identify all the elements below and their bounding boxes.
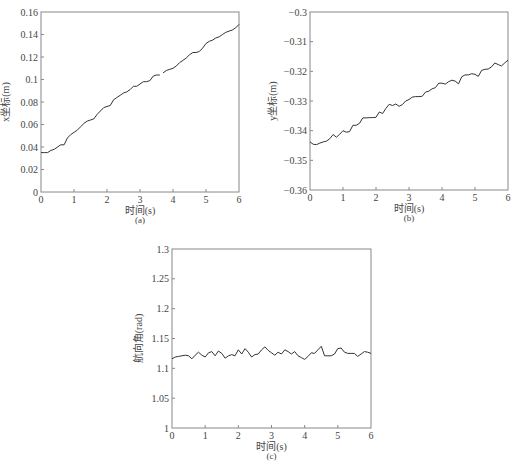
plot-frame: [41, 12, 239, 192]
x-tick-label: 4: [302, 430, 307, 441]
x-tick-label: 3: [138, 194, 143, 205]
figure-canvas: 012345600.020.040.060.080.10.120.140.16时…: [0, 0, 517, 473]
x-tick-label: 2: [105, 194, 110, 205]
y-tick-label: −0.33: [284, 96, 307, 107]
x-tick-label: 1: [72, 194, 77, 205]
x-tick-label: 0: [170, 430, 175, 441]
y-axis-label: 航向角(rad): [132, 314, 145, 363]
y-tick-label: 0.06: [21, 119, 39, 130]
y-tick-label: 0.16: [21, 7, 39, 18]
y-tick-label: 1.2: [157, 303, 170, 314]
x-tick-label: 2: [236, 430, 241, 441]
x-tick-label: 3: [407, 192, 412, 203]
x-tick-label: 6: [506, 192, 511, 203]
y-tick-label: −0.32: [284, 66, 307, 77]
plot-frame: [172, 249, 371, 428]
y-tick-label: 1.05: [152, 393, 170, 404]
y-tick-label: 0.04: [21, 142, 39, 153]
y-tick-label: 0.14: [21, 29, 39, 40]
y-tick-label: 0.02: [21, 164, 39, 175]
y-tick-label: −0.35: [284, 155, 307, 166]
data-line: [310, 60, 508, 145]
y-tick-label: 1.3: [157, 244, 170, 255]
panel-b: 0123456−0.36−0.35−0.34−0.33−0.32−0.31−0.…: [267, 7, 511, 224]
x-tick-label: 0: [308, 192, 313, 203]
y-tick-label: 0.12: [21, 52, 39, 63]
panel-a: 012345600.020.040.060.080.10.120.140.16时…: [0, 7, 242, 226]
panel-caption: (b): [404, 213, 415, 223]
x-tick-label: 6: [237, 194, 242, 205]
y-tick-label: 0.1: [26, 74, 39, 85]
data-line: [172, 346, 371, 359]
plot-frame: [310, 12, 508, 190]
x-tick-label: 5: [335, 430, 340, 441]
y-axis-label: x坐标(m): [0, 82, 12, 121]
y-tick-label: 1.25: [152, 273, 170, 284]
y-tick-label: 0: [33, 187, 38, 198]
y-tick-label: −0.31: [284, 36, 307, 47]
y-axis-label: y坐标(m): [267, 81, 279, 120]
panel-caption: (a): [135, 215, 145, 225]
y-tick-label: 1: [164, 423, 169, 434]
y-tick-label: 1.15: [152, 333, 170, 344]
x-tick-label: 6: [369, 430, 374, 441]
x-tick-label: 4: [171, 194, 176, 205]
y-tick-label: 1.1: [157, 363, 170, 374]
x-tick-label: 4: [440, 192, 445, 203]
y-tick-label: −0.36: [284, 185, 307, 196]
data-line: [163, 24, 239, 72]
y-tick-label: −0.3: [289, 7, 307, 18]
panel-caption: (c): [267, 451, 277, 461]
x-tick-label: 1: [203, 430, 208, 441]
x-tick-label: 5: [204, 194, 209, 205]
x-tick-label: 3: [269, 430, 274, 441]
y-tick-label: −0.34: [284, 125, 307, 136]
x-tick-label: 2: [374, 192, 379, 203]
x-tick-label: 1: [341, 192, 346, 203]
x-tick-label: 5: [473, 192, 478, 203]
x-tick-label: 0: [39, 194, 44, 205]
data-line: [41, 75, 160, 153]
panel-c: 012345611.051.11.151.21.251.3时间(s)(c)航向角…: [132, 244, 374, 462]
y-tick-label: 0.08: [21, 97, 39, 108]
